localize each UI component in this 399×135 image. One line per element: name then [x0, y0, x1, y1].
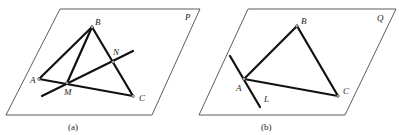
point-n: [112, 61, 115, 64]
segment-bc: [297, 26, 338, 96]
point-a: [243, 78, 246, 81]
segment-ab: [244, 26, 297, 79]
point-a: [38, 78, 41, 81]
plane-p: [6, 9, 200, 115]
segment-ac: [39, 79, 133, 96]
label-c: C: [139, 93, 146, 103]
geometry-figure: A B C M N P (a) A B C L Q (b): [0, 0, 399, 135]
label-b: B: [301, 16, 307, 26]
label-l: L: [263, 94, 269, 104]
point-m: [66, 82, 69, 85]
plane-label-q: Q: [377, 13, 384, 23]
figure-a: A B C M N P (a): [6, 9, 200, 132]
plane-label-p: P: [184, 12, 191, 22]
caption-b: (b): [261, 122, 272, 132]
label-n: N: [112, 47, 120, 57]
label-m: M: [63, 87, 72, 97]
segment-ac: [244, 79, 338, 96]
label-c: C: [343, 86, 350, 96]
segment-bm: [67, 27, 92, 83]
label-a: A: [235, 83, 242, 93]
point-c: [337, 95, 340, 98]
point-b: [296, 25, 299, 28]
point-c: [132, 95, 135, 98]
label-b: B: [95, 17, 101, 27]
figure-b: A B C L Q (b): [199, 9, 396, 132]
label-a: A: [29, 75, 36, 85]
point-b: [91, 26, 94, 29]
caption-a: (a): [68, 122, 78, 132]
